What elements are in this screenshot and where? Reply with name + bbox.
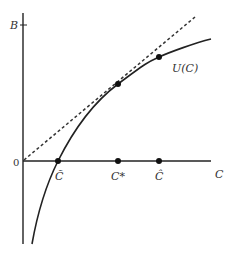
curve-label: U(C) [172, 62, 198, 75]
tangency-point [115, 81, 121, 87]
c-star-point [115, 158, 121, 164]
c-hat-curve-point [156, 54, 162, 60]
c-star-label: C* [111, 170, 125, 183]
x-axis-label: C [215, 168, 224, 181]
c-hat-label: Ĉ [155, 169, 164, 183]
c-tilde-label: C̃ [55, 170, 64, 183]
c-hat-point [156, 158, 162, 164]
y-axis-label: B [9, 19, 18, 32]
origin-label: 0 [13, 157, 19, 168]
c-tilde-point [55, 158, 61, 164]
tangent-line [24, 17, 195, 160]
utility-diagram: B 0 C U(C) C̃ C* Ĉ [0, 0, 236, 256]
